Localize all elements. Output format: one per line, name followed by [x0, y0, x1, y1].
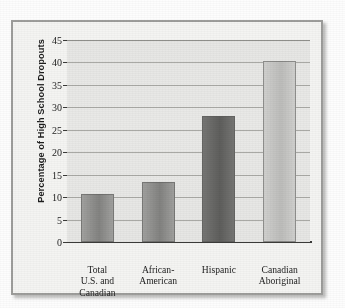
figure-frame: Percentage of High School Dropouts 05101… [11, 20, 323, 295]
y-tick-label: 5 [57, 214, 62, 225]
category-label: African- American [128, 264, 189, 287]
y-tick-mark [63, 107, 67, 108]
y-tick-label: 45 [52, 35, 62, 46]
category-label: Total U.S. and Canadian [67, 264, 128, 298]
y-tick-mark [63, 175, 67, 176]
y-tick-mark [63, 40, 67, 41]
y-tick-label: 30 [52, 102, 62, 113]
bar [81, 194, 114, 242]
category-label: Canadian Aboriginal [249, 264, 310, 287]
y-axis-title: Percentage of High School Dropouts [36, 34, 46, 209]
bar [142, 182, 175, 242]
y-tick-mark [63, 220, 67, 221]
plot-wrapper: 051015202530354045 Total U.S. and Canadi… [67, 40, 310, 246]
y-tick-label: 35 [52, 79, 62, 90]
scanned-page: Percentage of High School Dropouts 05101… [0, 0, 345, 308]
gridline [67, 40, 310, 41]
category-label: Hispanic [189, 264, 250, 275]
y-tick-label: 40 [52, 57, 62, 68]
y-tick-mark [63, 152, 67, 153]
bar [263, 61, 296, 242]
y-tick-mark [63, 197, 67, 198]
y-tick-mark [63, 85, 67, 86]
y-tick-mark [63, 242, 67, 243]
figure-inner: Percentage of High School Dropouts 05101… [15, 24, 319, 291]
y-tick-label: 15 [52, 169, 62, 180]
bar [202, 116, 235, 242]
y-tick-mark [63, 62, 67, 63]
y-tick-label: 20 [52, 147, 62, 158]
y-tick-label: 10 [52, 192, 62, 203]
y-tick-label: 0 [57, 237, 62, 248]
y-tick-label: 25 [52, 124, 62, 135]
plot-area [67, 40, 310, 242]
y-tick-mark [63, 130, 67, 131]
